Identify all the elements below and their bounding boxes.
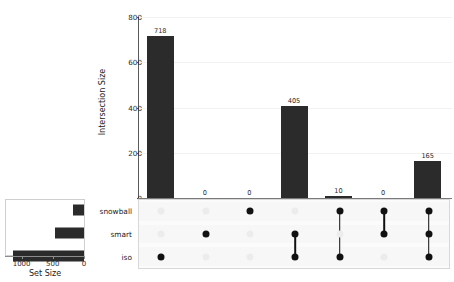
set-name-label-smart[interactable]: smart xyxy=(110,230,132,239)
matrix-dot-inactive[interactable] xyxy=(202,208,209,215)
set-name-labels: snowballsmartiso xyxy=(86,199,136,269)
set-size-axis-line xyxy=(5,256,85,257)
intersection-bar-value-label: 10 xyxy=(334,187,342,195)
matrix-dot-active[interactable] xyxy=(381,231,388,238)
gridline xyxy=(139,17,452,18)
matrix-dot-inactive[interactable] xyxy=(158,231,165,238)
matrix-dot-active[interactable] xyxy=(336,208,343,215)
set-size-plot-area xyxy=(5,199,85,256)
matrix-dot-active[interactable] xyxy=(336,253,343,260)
matrix-dot-inactive[interactable] xyxy=(158,208,165,215)
intersection-bar-value-label: 0 xyxy=(247,189,251,197)
intersection-bar[interactable] xyxy=(325,196,352,198)
intersection-bar-value-label: 165 xyxy=(421,152,434,160)
set-size-tick-label: 0 xyxy=(82,260,86,268)
matrix-dot-active[interactable] xyxy=(381,208,388,215)
matrix-dot-inactive[interactable] xyxy=(336,231,343,238)
gridline xyxy=(139,62,452,63)
matrix-dot-inactive[interactable] xyxy=(202,253,209,260)
set-size-tick xyxy=(22,256,23,259)
intersection-bar[interactable] xyxy=(414,161,441,198)
matrix-dot-inactive[interactable] xyxy=(292,208,299,215)
set-name-label-snowball[interactable]: snowball xyxy=(100,207,132,216)
matrix-dot-inactive[interactable] xyxy=(381,253,388,260)
matrix-dot-inactive[interactable] xyxy=(247,253,254,260)
matrix-dot-active[interactable] xyxy=(425,208,432,215)
matrix-dot-active[interactable] xyxy=(425,253,432,260)
set-size-tick xyxy=(84,256,85,259)
set-size-tick-label: 500 xyxy=(46,260,59,268)
matrix-dot-active[interactable] xyxy=(425,231,432,238)
matrix-dot-active[interactable] xyxy=(202,231,209,238)
intersection-bar-value-label: 0 xyxy=(381,189,385,197)
intersection-bar-value-label: 718 xyxy=(154,27,167,35)
set-size-bar-snowball[interactable] xyxy=(73,205,84,216)
set-size-title: Set Size xyxy=(29,269,61,278)
set-size-tick xyxy=(53,256,54,259)
matrix-dot-active[interactable] xyxy=(247,208,254,215)
intersection-plot-area: 0200400600800 71800405100165 xyxy=(138,6,450,198)
intersection-matrix xyxy=(138,199,450,269)
matrix-dot-active[interactable] xyxy=(292,231,299,238)
intersection-bar-value-label: 0 xyxy=(203,189,207,197)
matrix-dot-active[interactable] xyxy=(292,253,299,260)
intersection-size-panel: Intersection Size 0200400600800 71800405… xyxy=(138,6,450,198)
intersection-bar[interactable] xyxy=(147,36,174,198)
matrix-dot-inactive[interactable] xyxy=(247,231,254,238)
set-size-tick-label: 1000 xyxy=(13,260,31,268)
set-size-bar-smart[interactable] xyxy=(55,228,84,239)
matrix-dot-active[interactable] xyxy=(158,253,165,260)
upset-plot-root: Intersection Size 0200400600800 71800405… xyxy=(0,0,454,282)
intersection-bar[interactable] xyxy=(281,106,308,198)
set-size-panel: 10005000 Set Size xyxy=(5,199,85,269)
set-size-axis: 10005000 xyxy=(5,256,85,269)
y-axis-title: Intersection Size xyxy=(98,69,107,136)
set-name-label-iso[interactable]: iso xyxy=(122,252,132,261)
intersection-bar-value-label: 405 xyxy=(288,97,301,105)
